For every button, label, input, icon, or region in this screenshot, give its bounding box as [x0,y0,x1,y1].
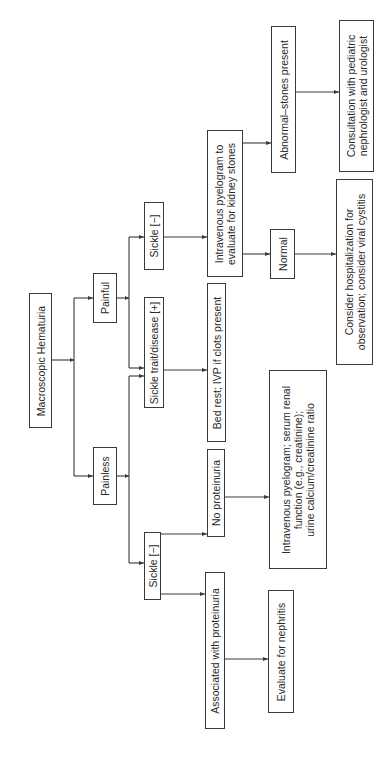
node-hospitalization: Consider hospitalization for observation… [336,179,373,365]
node-label: Sickle trait/disease [+] [148,301,160,403]
node-consultation: Consultation with pediatric nephrologist… [339,20,374,172]
node-painful: Painful [93,273,117,323]
node-normal: Normal [270,229,295,279]
node-label: Normal [277,237,289,271]
node-abnormal-stones: Abnormal–stones present [271,26,296,173]
node-sickle-positive: Sickle trait/disease [+] [144,297,164,408]
node-no-proteinuria: No proteinuria [207,449,225,537]
node-label: Evaluate for nephritis [275,602,287,701]
node-label: Intravenous pyelogram to evaluate for ki… [213,143,237,265]
node-label: Sickle [−] [148,215,160,258]
node-label: Macroscopic Hematuria [35,305,47,415]
node-label: Intravenous pyelogram; serum renal funct… [280,385,316,553]
node-ivp-kidney-stones: Intravenous pyelogram to evaluate for ki… [207,130,243,277]
node-label: Painful [99,282,111,314]
node-label: Painless [99,456,111,496]
node-with-proteinuria: Associated with proteinuria [205,572,225,729]
node-label: Abnormal–stones present [278,40,290,160]
node-label: Sickle [−] [147,545,159,588]
node-label: Bed rest; IVP if clots present [211,296,223,428]
node-label: Consider hospitalization for observation… [343,194,367,350]
node-label: Associated with proteinuria [209,588,221,713]
node-label: No proteinuria [210,460,222,526]
node-sickle-negative-painless: Sickle [−] [144,532,161,600]
node-macroscopic-hematuria: Macroscopic Hematuria [29,293,52,428]
node-painless: Painless [93,447,117,505]
node-sickle-negative-painful: Sickle [−] [144,202,164,270]
node-ivp-serum-renal: Intravenous pyelogram; serum renal funct… [269,370,327,569]
node-evaluate-nephritis: Evaluate for nephritis [268,590,294,713]
node-bed-rest: Bed rest; IVP if clots present [207,283,226,442]
node-label: Consultation with pediatric nephrologist… [345,35,369,158]
